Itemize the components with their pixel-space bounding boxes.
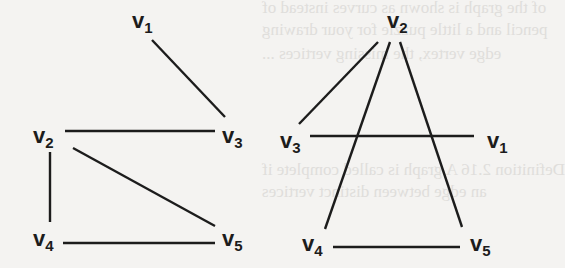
edge-v2-v5	[400, 42, 462, 227]
vertex-label-v1: v1	[132, 8, 153, 36]
vertex-label-v2: v2	[33, 123, 54, 151]
edge-v2-v5	[73, 148, 215, 226]
vertex-label-v2: v2	[387, 8, 408, 36]
vertex-label-v3: v3	[222, 123, 243, 151]
vertex-label-v4: v4	[33, 226, 54, 254]
vertex-label-v5: v5	[470, 231, 491, 259]
vertex-label-v5: v5	[222, 226, 243, 254]
edge-v1-v3	[152, 40, 225, 117]
left-graph: v1 v2 v3 v4 v5	[33, 8, 243, 254]
vertex-label-v3: v3	[280, 128, 301, 156]
vertex-label-v1: v1	[487, 128, 508, 156]
vertex-label-v4: v4	[302, 231, 323, 259]
right-graph: v2 v3 v1 v4 v5	[280, 8, 508, 259]
